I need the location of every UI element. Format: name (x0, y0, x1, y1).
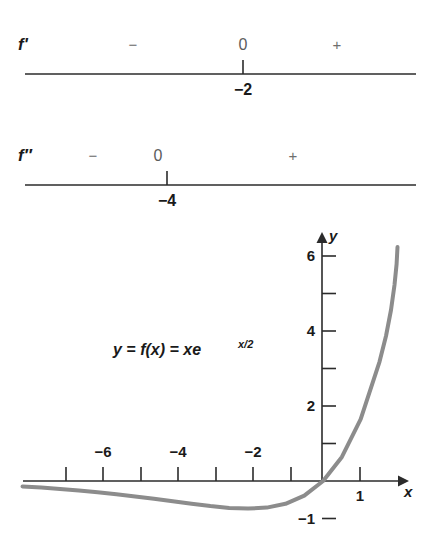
sign-chart-f-prime-left-sign: − (129, 36, 138, 53)
sign-chart-f-double-prime-function-label: f″ (18, 146, 33, 165)
x-axis-ticks (66, 467, 360, 481)
function-graph: x y −6 −4 −2 1 (23, 227, 414, 527)
y-axis-arrowhead (317, 232, 328, 243)
sign-chart-f-double-prime-right-sign: + (289, 147, 298, 164)
function-curve (23, 247, 398, 509)
x-tick-label-minus6: −6 (94, 443, 111, 460)
sign-chart-f-prime-function-label: f' (18, 35, 29, 54)
sign-chart-f-prime-right-sign: + (333, 36, 342, 53)
y-axis-label: y (328, 227, 338, 244)
x-tick-label-minus4: −4 (169, 443, 187, 460)
x-axis-label: x (403, 483, 413, 500)
x-tick-label-minus2: −2 (244, 443, 261, 460)
sign-chart-f-prime-root-label: −2 (234, 81, 252, 98)
y-tick-label-minus1: −1 (298, 510, 315, 527)
x-tick-label-1: 1 (356, 487, 364, 504)
y-tick-label-6: 6 (307, 247, 315, 264)
equation-main-text: y = f(x) = xe (112, 341, 201, 358)
equation-label: y = f(x) = xe x/2 (112, 338, 253, 358)
sign-chart-f-prime: f' − 0 + −2 (18, 35, 416, 98)
calculus-figure: f' − 0 + −2 f″ − 0 + −4 x y (0, 0, 432, 549)
equation-exponent-text: x/2 (237, 338, 253, 350)
sign-chart-f-prime-zero-label: 0 (239, 36, 248, 53)
sign-chart-f-double-prime-root-label: −4 (158, 192, 176, 209)
figure-svg: f' − 0 + −2 f″ − 0 + −4 x y (0, 0, 432, 549)
y-tick-label-4: 4 (307, 322, 316, 339)
sign-chart-f-double-prime-left-sign: − (89, 147, 98, 164)
y-tick-label-2: 2 (307, 397, 315, 414)
sign-chart-f-double-prime-zero-label: 0 (154, 147, 163, 164)
sign-chart-f-double-prime: f″ − 0 + −4 (18, 146, 416, 209)
